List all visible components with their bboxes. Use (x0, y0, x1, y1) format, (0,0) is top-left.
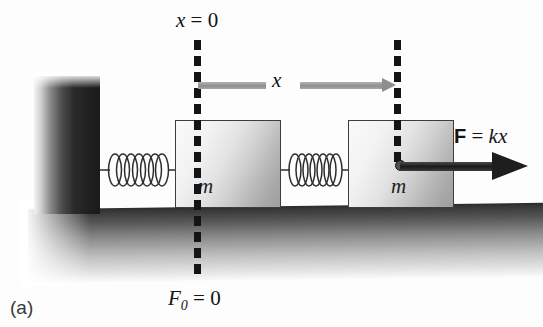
displacement-label: x (272, 68, 281, 93)
origin-label-var: x (176, 8, 185, 32)
spring-relaxed (100, 148, 178, 192)
physics-diagram-spring-mass: m m x x = 0 F0 = 0 F = kx (a) (0, 0, 543, 327)
origin-label: x = 0 (176, 8, 218, 33)
zero-force-eq: = 0 (188, 286, 221, 310)
zero-force-var: F (168, 286, 181, 310)
force-label-eq: = (466, 124, 488, 148)
figure-caption: (a) (10, 297, 33, 319)
zero-force-subscript: 0 (181, 298, 188, 313)
dashline-displaced (394, 40, 401, 168)
origin-label-eq: = 0 (185, 8, 218, 32)
dashline-origin (194, 40, 201, 280)
block-equilibrium: m (175, 120, 281, 208)
zero-force-label: F0 = 0 (168, 286, 221, 314)
force-label: F = kx (454, 124, 507, 149)
force-label-expr: kx (489, 124, 508, 148)
force-label-vector: F (454, 125, 466, 147)
mass-label-displaced: m (391, 174, 406, 199)
wall-top-fade (34, 72, 100, 88)
ground-surface (28, 203, 543, 283)
wall (34, 76, 100, 214)
spring-stretched (281, 148, 351, 192)
